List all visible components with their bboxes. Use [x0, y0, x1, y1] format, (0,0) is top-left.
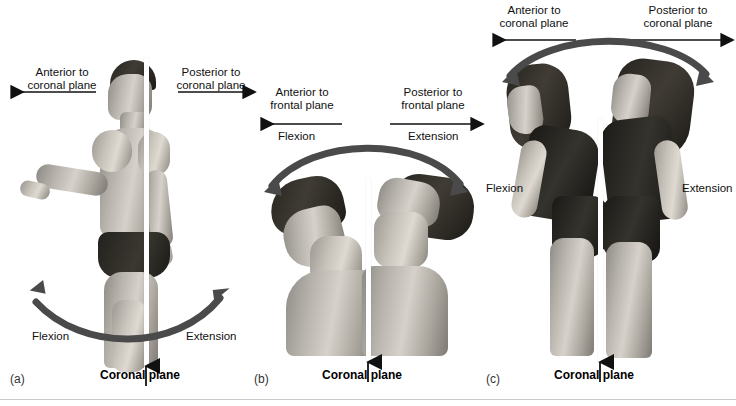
plane-label-a: Coronal plane: [100, 368, 180, 382]
label-flexion-a: Flexion: [32, 330, 69, 343]
label-anterior-coronal-a: Anterior to coronal plane: [18, 66, 106, 92]
plane-label-c: Coronal plane: [554, 368, 634, 382]
label-flexion-b: Flexion: [278, 130, 315, 143]
plane-label-b: Coronal plane: [322, 368, 402, 382]
panel-b: Anterior to frontal plane Posterior to f…: [250, 0, 480, 406]
panel-a: Anterior to coronal plane Posterior to c…: [0, 0, 250, 406]
label-extension-c: Extension: [682, 182, 733, 195]
panel-letter-c: (c): [486, 372, 500, 386]
label-anterior-frontal-b: Anterior to frontal plane: [258, 86, 346, 112]
label-posterior-frontal-b: Posterior to frontal plane: [390, 86, 476, 112]
coronal-plane-line: [144, 58, 149, 370]
footer-rule: [0, 399, 736, 400]
label-anterior-coronal-c: Anterior to coronal plane: [490, 4, 578, 30]
coronal-plane-line: [598, 118, 603, 362]
label-posterior-coronal-a: Posterior to coronal plane: [176, 66, 246, 92]
label-extension-b: Extension: [408, 130, 459, 143]
label-flexion-c: Flexion: [486, 182, 523, 195]
panel-letter-b: (b): [254, 372, 269, 386]
label-extension-a: Extension: [186, 330, 237, 343]
label-posterior-coronal-c: Posterior to coronal plane: [632, 4, 724, 30]
panel-letter-a: (a): [10, 372, 25, 386]
coronal-plane-line: [366, 178, 371, 360]
anatomy-figure: Anterior to coronal plane Posterior to c…: [0, 0, 736, 406]
panel-c: Anterior to coronal plane Posterior to c…: [480, 0, 736, 406]
